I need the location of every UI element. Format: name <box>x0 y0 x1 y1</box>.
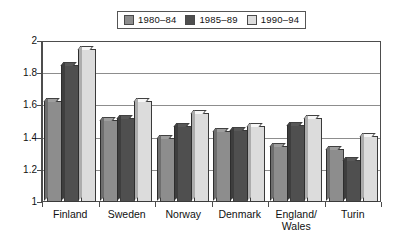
bar-group-bars <box>99 41 156 202</box>
x-axis-labels: FinlandSwedenNorwayDenmarkEngland/WalesT… <box>42 208 381 232</box>
x-axis-label-line: Wales <box>268 220 325 232</box>
bar-group-bars <box>325 41 382 202</box>
bar-slot <box>118 41 135 202</box>
legend-label-1990-94: 1990–94 <box>261 15 299 25</box>
bar-group-bars <box>155 41 212 202</box>
x-axis-label: Turin <box>325 208 382 232</box>
x-axis-label-line: Turin <box>325 208 382 220</box>
bar[interactable] <box>250 126 265 202</box>
legend-item-1990-94[interactable]: 1990–94 <box>247 15 299 25</box>
x-tick-mark <box>42 202 43 207</box>
y-tick-mark <box>37 202 42 203</box>
x-axis-label: Denmark <box>212 208 269 232</box>
x-axis-label: Sweden <box>99 208 156 232</box>
bar[interactable] <box>160 138 175 202</box>
legend-swatch-icon-1985-89 <box>185 15 195 25</box>
bar-slot <box>175 41 192 202</box>
x-axis-label-line: Denmark <box>212 208 269 220</box>
legend-item-1985-89[interactable]: 1985–89 <box>185 15 237 25</box>
x-axis-label-line: Finland <box>42 208 99 220</box>
bar[interactable] <box>137 101 152 202</box>
bar[interactable] <box>64 65 79 202</box>
bar-group <box>42 41 99 202</box>
bar[interactable] <box>194 113 209 202</box>
legend-swatch-icon-1990-94 <box>247 15 257 25</box>
legend-label-1985-89: 1985–89 <box>199 15 237 25</box>
legend-label-1980-84: 1980–84 <box>138 15 176 25</box>
bar[interactable] <box>103 120 118 202</box>
bar-slot <box>101 41 118 202</box>
y-axis: 21.81.61.41.21 <box>0 0 37 245</box>
bar-slot <box>271 41 288 202</box>
y-tick-label: 1.6 <box>7 100 37 110</box>
y-tick-label: 1.4 <box>7 133 37 143</box>
legend-item-1980-84[interactable]: 1980–84 <box>124 15 176 25</box>
bar-slot <box>45 41 62 202</box>
bar-groups <box>42 41 381 202</box>
bar[interactable] <box>120 118 135 202</box>
y-tick-mark <box>37 138 42 139</box>
bar-slot <box>135 41 152 202</box>
bar-slot <box>158 41 175 202</box>
x-tick-mark <box>99 202 100 207</box>
chart-legend: 1980–84 1985–89 1990–94 <box>117 11 306 29</box>
y-tick-label: 2 <box>7 36 37 46</box>
y-tick-mark <box>37 170 42 171</box>
y-tick-label: 1.8 <box>7 68 37 78</box>
bar[interactable] <box>307 118 322 202</box>
bar-slot <box>327 41 344 202</box>
bar-slot <box>288 41 305 202</box>
bar-slot <box>62 41 79 202</box>
x-axis-label: England/Wales <box>268 208 325 232</box>
bar[interactable] <box>47 101 62 202</box>
bar-slot <box>79 41 96 202</box>
bar[interactable] <box>363 136 378 202</box>
y-tick-mark <box>37 73 42 74</box>
y-tick-label: 1.2 <box>7 165 37 175</box>
bar-group <box>155 41 212 202</box>
bar-slot <box>192 41 209 202</box>
bar-group-bars <box>212 41 269 202</box>
x-axis-label-line: Sweden <box>99 208 156 220</box>
x-tick-mark <box>268 202 269 207</box>
bar[interactable] <box>329 149 344 202</box>
y-tick-mark <box>37 41 42 42</box>
x-axis-label-line: Norway <box>155 208 212 220</box>
bar-slot <box>305 41 322 202</box>
x-axis-label: Norway <box>155 208 212 232</box>
bar-group <box>325 41 382 202</box>
y-tick-label: 1 <box>7 197 37 207</box>
bar[interactable] <box>290 125 305 202</box>
bar[interactable] <box>81 49 96 202</box>
x-tick-mark <box>155 202 156 207</box>
bar-chart: 1980–84 1985–89 1990–94 21.81.61.41.21 F… <box>0 0 400 245</box>
bar[interactable] <box>346 160 361 202</box>
bar-group <box>212 41 269 202</box>
bar-slot <box>344 41 361 202</box>
legend-swatch-icon-1980-84 <box>124 15 134 25</box>
bar-slot <box>361 41 378 202</box>
x-tick-mark <box>381 202 382 207</box>
bar-group-bars <box>268 41 325 202</box>
bar[interactable] <box>216 131 231 202</box>
bar-slot <box>231 41 248 202</box>
y-tick-mark <box>37 105 42 106</box>
bar-group-bars <box>42 41 99 202</box>
x-axis-label-line: England/ <box>268 208 325 220</box>
bar-slot <box>214 41 231 202</box>
bar-slot <box>248 41 265 202</box>
bar-group <box>268 41 325 202</box>
bar[interactable] <box>177 126 192 202</box>
x-axis-ticks <box>42 202 381 207</box>
x-tick-mark <box>325 202 326 207</box>
x-tick-mark <box>212 202 213 207</box>
x-axis-label: Finland <box>42 208 99 232</box>
bar[interactable] <box>233 130 248 202</box>
bar-group <box>99 41 156 202</box>
bar[interactable] <box>273 146 288 202</box>
